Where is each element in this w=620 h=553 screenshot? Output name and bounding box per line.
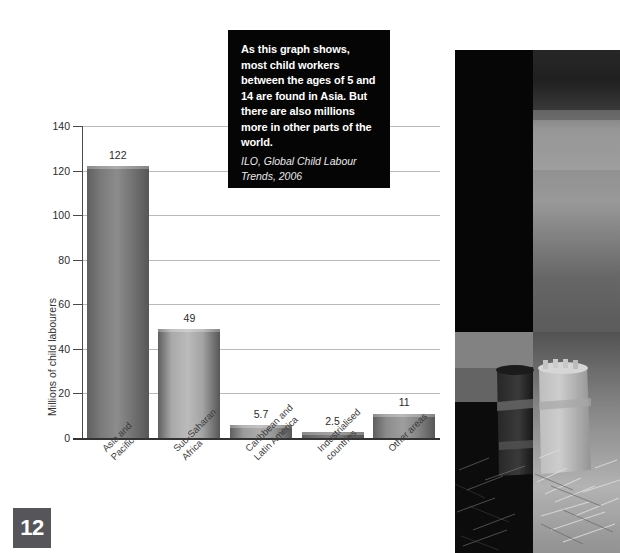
y-tick-label-wrap: 40 — [28, 343, 70, 344]
y-tick-mark — [73, 215, 82, 216]
quote-body-text: As this graph shows, most child workers … — [241, 42, 378, 151]
y-tick-label-wrap: 20 — [28, 387, 70, 388]
y-tick-mark — [73, 349, 82, 350]
y-tick-label: 20 — [34, 387, 70, 399]
y-tick-label: 120 — [34, 165, 70, 177]
quote-callout-box: As this graph shows, most child workers … — [228, 30, 390, 188]
y-tick-label-wrap: 0 — [28, 432, 70, 433]
y-tick-label: 60 — [34, 298, 70, 310]
y-tick-mark — [73, 171, 82, 172]
y-axis-title: Millions of child labourers — [46, 257, 58, 457]
quote-source-text: ILO, Global Child Labour Trends, 2006 — [241, 154, 378, 184]
y-axis-title-wrap: Millions of child labourers — [40, 0, 60, 553]
bar-value-label-5: 11 — [373, 396, 435, 408]
y-tick-mark — [73, 260, 82, 261]
bar-1 — [87, 166, 149, 438]
y-tick-mark — [73, 304, 82, 305]
y-tick-label: 100 — [34, 209, 70, 221]
y-tick-label-wrap: 60 — [28, 298, 70, 299]
y-tick-label-wrap: 80 — [28, 254, 70, 255]
photo-graphic — [455, 50, 620, 553]
bar-top-highlight — [87, 166, 149, 169]
y-tick-label-wrap: 120 — [28, 165, 70, 166]
bar-top-highlight — [158, 329, 220, 332]
page-root: Millions of child labourers 020406080100… — [0, 0, 620, 553]
bar-value-label-2: 49 — [158, 312, 220, 324]
photo-image — [455, 50, 620, 553]
y-tick-label: 0 — [34, 432, 70, 444]
y-tick-label: 80 — [34, 254, 70, 266]
quote-inner: As this graph shows, most child workers … — [228, 30, 390, 188]
y-tick-mark — [73, 126, 82, 127]
page-number-badge: 12 — [13, 508, 51, 548]
bar-value-label-1: 122 — [87, 149, 149, 161]
y-tick-mark — [73, 393, 82, 394]
y-tick-label: 40 — [34, 343, 70, 355]
y-tick-label-wrap: 140 — [28, 120, 70, 121]
y-tick-label-wrap: 100 — [28, 209, 70, 210]
y-tick-label: 140 — [34, 120, 70, 132]
